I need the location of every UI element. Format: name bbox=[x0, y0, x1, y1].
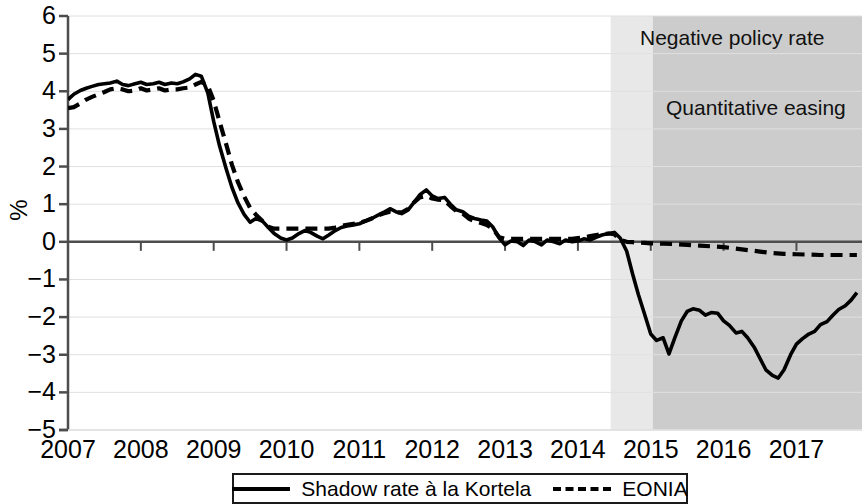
solid-line-swatch-icon bbox=[232, 487, 290, 491]
y-tick-label: 1 bbox=[12, 191, 56, 216]
chart-figure: % 6543210−1−2−3−4−5 20072008200920102011… bbox=[0, 0, 862, 504]
shaded-regions bbox=[611, 16, 862, 430]
legend-entry-eonia: EONIA bbox=[553, 478, 687, 499]
legend-label-eonia: EONIA bbox=[622, 478, 687, 499]
y-tick-label: 3 bbox=[12, 116, 56, 141]
annotation-negative-policy-rate: Negative policy rate bbox=[640, 26, 824, 50]
legend-label-shadow-rate: Shadow rate à la Kortela bbox=[301, 478, 531, 499]
y-tick-label: 2 bbox=[12, 154, 56, 179]
y-tick-label: −4 bbox=[12, 379, 56, 404]
shaded-region-quantitative-easing bbox=[653, 16, 862, 430]
y-tick-label: 0 bbox=[12, 229, 56, 254]
x-tick-label: 2017 bbox=[751, 437, 841, 462]
y-tick-label: 5 bbox=[12, 41, 56, 66]
y-tick-label: 4 bbox=[12, 78, 56, 103]
chart-plot-area bbox=[0, 0, 862, 504]
annotation-quantitative-easing: Quantitative easing bbox=[666, 96, 846, 120]
y-tick-label: 6 bbox=[12, 3, 56, 28]
y-tick-label: −1 bbox=[12, 266, 56, 291]
dashed-line-swatch-icon bbox=[553, 487, 611, 491]
legend-entry-shadow-rate: Shadow rate à la Kortela bbox=[232, 478, 531, 499]
chart-legend: Shadow rate à la Kortela EONIA bbox=[232, 473, 688, 504]
y-tick-label: −3 bbox=[12, 342, 56, 367]
y-tick-label: −2 bbox=[12, 304, 56, 329]
